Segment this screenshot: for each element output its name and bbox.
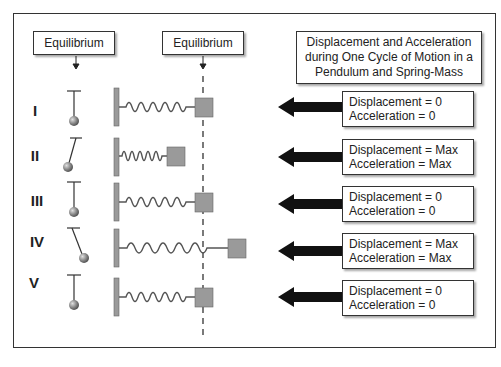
- arrow-row-2: [278, 147, 343, 167]
- equilibrium-arrow-spring: [200, 56, 206, 69]
- equilibrium-label-spring: Equilibrium: [162, 31, 244, 55]
- pendulum-row-4: [67, 228, 89, 263]
- title-line-3: Pendulum and Spring-Mass: [301, 65, 477, 80]
- acceleration-value: Acceleration = 0: [349, 109, 467, 123]
- row-numeral-4: IV: [27, 233, 47, 250]
- arrow-row-3: [278, 194, 343, 214]
- arrow-row-4: [278, 241, 343, 261]
- row-numeral-5: V: [24, 274, 44, 291]
- acceleration-value: Acceleration = Max: [349, 157, 467, 171]
- displacement-value: Displacement = Max: [349, 143, 467, 157]
- arrow-row-1: [278, 97, 343, 117]
- displacement-value: Displacement = 0: [349, 190, 467, 204]
- arrow-row-5: [278, 287, 343, 307]
- acceleration-value: Acceleration = 0: [349, 298, 467, 312]
- info-box-row-2: Displacement = Max Acceleration = Max: [342, 139, 474, 175]
- displacement-value: Displacement = 0: [349, 95, 467, 109]
- acceleration-value: Acceleration = Max: [349, 251, 467, 265]
- diagram-title: Displacement and Acceleration during One…: [296, 31, 482, 84]
- pendulum-row-2: [63, 138, 82, 172]
- pendulum-row-3: [67, 182, 81, 217]
- displacement-value: Displacement = 0: [349, 284, 467, 298]
- pendulum-row-5: [67, 275, 81, 310]
- spring-row-5: [114, 278, 213, 316]
- info-box-row-3: Displacement = 0 Acceleration = 0: [342, 186, 474, 222]
- displacement-value: Displacement = Max: [349, 237, 467, 251]
- row-numeral-1: I: [25, 102, 45, 119]
- title-line-2: during One Cycle of Motion in a: [301, 50, 477, 65]
- row-numeral-2: II: [25, 147, 45, 164]
- equilibrium-label-pendulum: Equilibrium: [33, 31, 115, 55]
- info-box-row-1: Displacement = 0 Acceleration = 0: [342, 91, 474, 127]
- spring-row-1: [114, 88, 213, 126]
- acceleration-value: Acceleration = 0: [349, 204, 467, 218]
- info-box-row-4: Displacement = Max Acceleration = Max: [342, 233, 474, 269]
- spring-row-2: [114, 138, 185, 176]
- equilibrium-arrow-pendulum: [73, 56, 79, 69]
- title-line-1: Displacement and Acceleration: [301, 35, 477, 50]
- pendulum-row-1: [67, 91, 81, 126]
- info-box-row-5: Displacement = 0 Acceleration = 0: [342, 280, 474, 316]
- spring-row-3: [114, 183, 213, 221]
- spring-row-4: [114, 229, 246, 267]
- row-numeral-3: III: [27, 192, 47, 209]
